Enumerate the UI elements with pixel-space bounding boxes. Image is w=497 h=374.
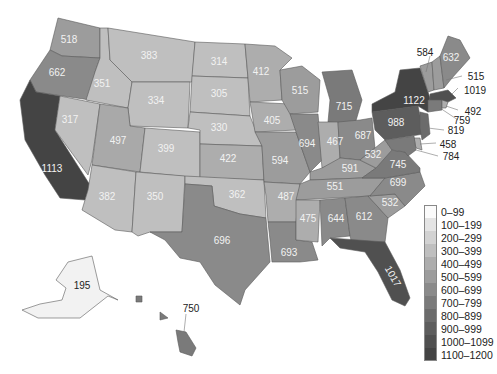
legend-item: 300–399 [424,244,494,257]
legend-swatch [424,231,437,244]
state-ar [264,182,300,222]
legend-item: 1000–1099 [424,335,494,348]
label-tn: 551 [327,181,344,192]
legend-swatch [424,283,437,296]
label-ia: 405 [264,115,281,126]
label-sc: 532 [382,197,399,208]
legend-item: 700–799 [424,296,494,309]
legend-label: 400–499 [441,258,482,270]
label-id: 351 [94,78,111,89]
label-ms: 475 [300,213,317,224]
legend-label: 900–999 [441,323,482,335]
label-hi: 750 [183,303,200,314]
label-ga: 612 [356,211,373,222]
label-vt: 584 [417,47,434,58]
label-oh: 687 [355,130,372,141]
legend-label: 0–99 [441,206,464,218]
label-va: 745 [390,159,407,170]
label-al: 644 [328,213,345,224]
legend-item: 900–999 [424,322,494,335]
label-wv: 532 [365,149,382,160]
legend: 0–99 100–199 200–299 300–399 400–499 500… [424,205,494,361]
label-pa: 988 [388,117,405,128]
label-wa: 518 [61,34,78,45]
legend-item: 1100–1200 [424,348,494,361]
legend-swatch [424,296,437,309]
legend-label: 500–599 [441,271,482,283]
label-tx: 696 [214,235,231,246]
label-la: 693 [281,247,298,258]
legend-swatch [424,322,437,335]
legend-swatch [424,335,437,348]
label-ut: 497 [110,135,127,146]
legend-item: 400–499 [424,257,494,270]
legend-label: 700–799 [441,297,482,309]
state-nj [420,112,430,140]
state-ct [428,100,442,112]
label-nc: 699 [390,177,407,188]
label-wy: 334 [148,95,165,106]
label-nv: 317 [62,114,79,125]
legend-label: 1100–1200 [441,349,493,361]
legend-label: 1000–1099 [441,336,494,348]
legend-swatch [424,270,437,283]
legend-item: 100–199 [424,218,494,231]
label-mi: 715 [336,101,353,112]
label-il: 694 [299,138,316,149]
legend-swatch [424,205,437,218]
label-de: 458 [440,139,457,150]
legend-item: 800–899 [424,309,494,322]
state-ak [22,256,118,318]
label-wi: 515 [292,85,309,96]
state-mi [322,70,362,124]
leader-ri [446,106,458,110]
label-ca: 1113 [42,163,63,174]
state-nm [132,172,185,236]
legend-item: 0–99 [424,205,494,218]
label-ny: 1122 [403,95,425,106]
label-ne: 330 [211,122,228,133]
label-mn: 412 [253,66,270,77]
label-nh: 515 [468,71,485,82]
legend-label: 300–399 [441,245,482,257]
label-mo: 594 [272,155,289,166]
legend-label: 200–299 [441,232,482,244]
label-nj: 819 [448,125,465,136]
label-sd: 305 [211,88,228,99]
legend-swatch [424,309,437,322]
us-choropleth-map: 518 662 1113 351 317 383 334 497 399 382… [0,0,497,374]
legend-label: 100–199 [441,219,482,231]
legend-swatch [424,244,437,257]
leader-hi [184,314,186,332]
label-ar: 487 [278,191,295,202]
legend-label: 600–699 [441,284,482,296]
legend-swatch [424,348,437,361]
label-or: 662 [49,67,66,78]
legend-item: 500–599 [424,270,494,283]
label-in: 467 [327,136,344,147]
label-mt: 383 [141,50,158,61]
leader-ma [452,88,458,94]
label-nd: 314 [211,56,228,67]
legend-swatch [424,218,437,231]
legend-item: 600–699 [424,283,494,296]
legend-swatch [424,257,437,270]
legend-item: 200–299 [424,231,494,244]
label-ma: 1019 [464,85,487,96]
label-nm: 350 [147,191,164,202]
label-az: 382 [99,191,116,202]
leader-md [416,150,438,156]
label-co: 399 [158,143,175,154]
label-md: 784 [443,151,460,162]
label-me: 632 [443,52,460,63]
label-ak: 195 [74,280,91,291]
label-ks: 422 [220,153,237,164]
label-ok: 362 [229,189,246,200]
label-ky: 591 [342,163,359,174]
legend-label: 800–899 [441,310,482,322]
leader-nj [428,128,444,130]
leader-de [420,143,436,144]
